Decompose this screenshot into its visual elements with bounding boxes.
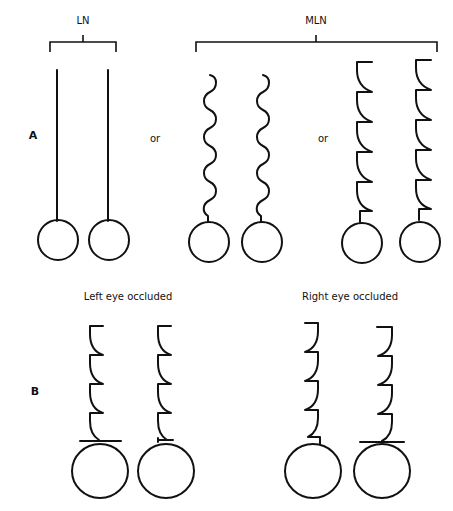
mln-jerk-right-trace	[400, 60, 440, 262]
mln-pendular-right-trace	[242, 75, 282, 262]
or-label-1: or	[150, 133, 160, 144]
ln-right-eye-trace	[89, 70, 129, 260]
ln-label: LN	[76, 15, 89, 26]
diagram-drawing	[0, 0, 453, 511]
mln-bracket	[196, 35, 437, 52]
or-label-2: or	[318, 133, 328, 144]
ln-bracket	[50, 35, 116, 52]
nystagmus-diagram: LN MLN A or or Left eye occluded Right e…	[0, 0, 453, 511]
mln-jerk-left-trace	[342, 62, 382, 263]
b-left-occluded-eye2-trace	[138, 326, 194, 498]
mln-pendular-left-trace	[189, 75, 229, 262]
right-eye-occluded-caption: Right eye occluded	[302, 291, 398, 302]
b-left-occluded-eye1-trace	[72, 326, 128, 498]
b-right-occluded-eye2-trace	[354, 327, 410, 498]
left-eye-occluded-caption: Left eye occluded	[84, 291, 172, 302]
mln-label: MLN	[305, 15, 327, 26]
ln-left-eye-trace	[38, 70, 78, 260]
panel-a-letter: A	[29, 129, 38, 142]
panel-b-letter: B	[31, 385, 39, 398]
b-right-occluded-eye1-trace	[285, 323, 341, 498]
